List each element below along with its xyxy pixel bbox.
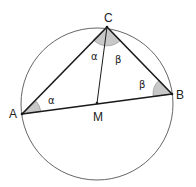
label-alpha-at-c: α	[91, 51, 98, 62]
label-c: C	[104, 11, 113, 25]
geometry-diagram: A B C M α β α β	[0, 0, 196, 187]
label-beta-at-b: β	[139, 79, 145, 90]
point-c	[106, 26, 109, 29]
point-m	[96, 102, 99, 105]
label-a: A	[9, 107, 17, 121]
label-alpha-at-a: α	[48, 95, 55, 106]
label-m: M	[93, 110, 103, 124]
label-b: B	[176, 88, 184, 102]
point-b	[171, 93, 174, 96]
point-a	[21, 113, 24, 116]
side-ac	[22, 27, 107, 114]
label-beta-at-c: β	[115, 54, 121, 65]
